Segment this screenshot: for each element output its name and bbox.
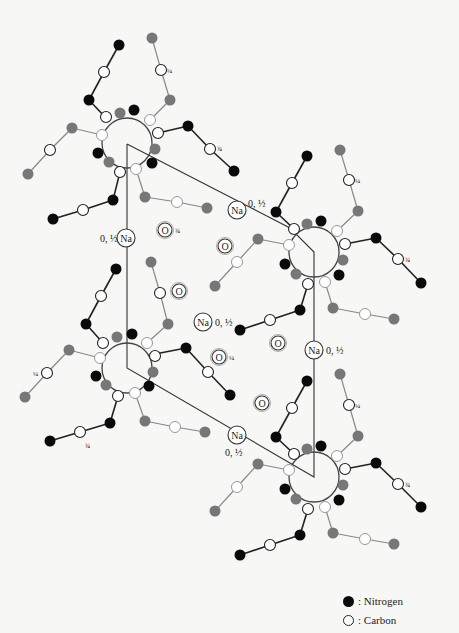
svg-text:O: O	[215, 352, 222, 363]
svg-text:Na: Na	[231, 205, 243, 216]
svg-text:Na: Na	[197, 317, 209, 328]
svg-text:0, ½: 0, ½	[215, 317, 233, 328]
na-ion: Na 0, ½	[225, 426, 246, 458]
crystal-structure-diagram: ¼ ¾	[0, 0, 459, 633]
legend-nitrogen: : Nitrogen	[343, 595, 403, 607]
svg-text:Na: Na	[231, 430, 243, 441]
svg-text:¾: ¾	[175, 227, 180, 235]
oxygen-atom: O ¼	[211, 349, 235, 366]
oxygen-atom: O	[217, 238, 234, 255]
height-label: ¼	[355, 402, 360, 410]
svg-text:Na: Na	[120, 233, 132, 244]
na-ion: Na 0, ½	[305, 341, 344, 359]
nitrogen-swatch-icon	[343, 596, 354, 607]
svg-text:0, ½: 0, ½	[225, 447, 243, 458]
height-label: ¾	[217, 145, 222, 153]
height-label: ¾	[405, 256, 410, 264]
height-label: ¼	[355, 177, 360, 185]
molecule-cluster-lower-right: ¼ ¾	[210, 369, 427, 561]
na-ion: Na 0, ½	[194, 313, 233, 331]
svg-text:¼: ¼	[229, 354, 234, 362]
molecule-cluster-right: ¼ ¾	[210, 145, 427, 336]
na-ion: Na 0, ½	[228, 198, 266, 219]
legend-carbon: : Carbon	[343, 614, 396, 626]
svg-text:O: O	[258, 398, 265, 409]
svg-text:O: O	[274, 338, 281, 349]
svg-text:Na: Na	[308, 345, 320, 356]
svg-text:O: O	[175, 286, 182, 297]
svg-text:O: O	[161, 225, 168, 236]
legend-label: : Carbon	[358, 614, 396, 626]
height-label: ¼	[33, 370, 38, 378]
height-label: ¼	[167, 67, 172, 75]
svg-text:0, ½: 0, ½	[248, 198, 266, 209]
oxygen-atom: O	[171, 283, 188, 300]
oxygen-atom: O	[254, 395, 271, 412]
height-label: ¾	[405, 481, 410, 489]
svg-text:0, ½: 0, ½	[326, 345, 344, 356]
oxygen-atom: O ¾	[157, 222, 181, 239]
svg-text:0, ½: 0, ½	[100, 233, 118, 244]
height-label: ¾	[85, 442, 90, 450]
na-ion: Na 0, ½	[100, 229, 135, 247]
molecule-cluster-top-left: ¼ ¾	[23, 33, 240, 225]
oxygen-atom: O	[270, 335, 287, 352]
carbon-swatch-icon	[343, 615, 354, 626]
svg-text:O: O	[221, 241, 228, 252]
legend-label: : Nitrogen	[358, 595, 403, 607]
